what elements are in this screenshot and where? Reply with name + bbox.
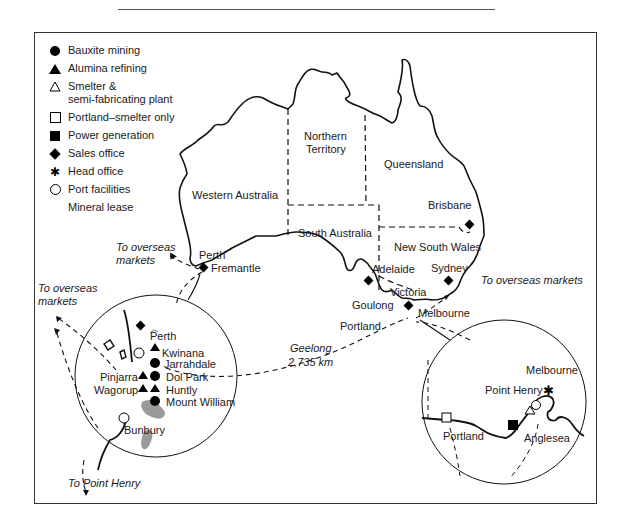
label-overseas-inset-1: To overseas [38,282,98,294]
inset-label-bunbury: Bunbury [124,424,165,436]
label-perth: Perth [199,249,225,261]
inset-label-wagorup: Wagorup [94,384,138,396]
label-overseas-inset-2: markets [38,295,78,307]
diamond-icon-inset-perth [136,321,146,331]
label-portland: Portland [340,320,381,332]
label-victoria: Victoria [390,286,427,298]
inset-vic: ✱ Melbourne Point Henry Portland Anglese… [422,320,586,484]
label-northern-territory-2: Territory [306,143,346,155]
diamond-icon-brisbane [465,220,475,230]
label-to-point-henry: To Point Henry [68,477,142,489]
open-circle-icon-point-henry-port [532,401,541,410]
label-adelaide: Adelaide [372,263,415,275]
label-overseas-wa-1: To overseas [116,241,176,253]
diamond-icon-adelaide [364,276,374,286]
triangle-icon-kwinana [150,343,160,351]
arrowhead-icon [444,294,450,300]
label-sydney: Sydney [431,262,468,274]
inset-label-perth: Perth [150,330,176,342]
label-melbourne: Melbourne [418,307,470,319]
circle-icon-dol-park [150,371,160,381]
diamond-icon-sydney [444,276,454,286]
label-overseas-wa-2: markets [116,254,156,266]
label-goulong: Goulong [352,299,394,311]
triangle-icon-huntly [150,384,160,392]
inset-label-jarrahdale: Jarrahdale [164,358,216,370]
circle-icon-mount-william [150,396,160,406]
filled-square-icon-anglesea [508,420,518,430]
inset-label-portland: Portland [443,430,484,442]
open-circle-icon-bunbury-port [119,413,129,423]
arrowhead-icon [167,252,177,261]
inset-label-point-henry: Point Henry [485,384,543,396]
inset-wa: Perth Kwinana Jarrahdale Pinjarra Dol Pa… [75,295,237,470]
label-queensland: Queensland [384,158,443,170]
label-fremantle: Fremantle [211,262,261,274]
arrowhead-icon [83,490,89,496]
map-canvas: Western Australia Northern Territory Que… [0,0,621,530]
inset-label-mount-william: Mount William [166,396,235,408]
inset-label-pinjarra: Pinjarra [100,371,139,383]
inset-label-melbourne: Melbourne [526,364,578,376]
open-circle-icon-kwinana-port [134,348,144,358]
open-square-icon-portland [442,413,451,422]
label-western-australia: Western Australia [192,189,279,201]
label-brisbane: Brisbane [428,199,471,211]
label-northern-territory-1: Northern [304,130,347,142]
label-south-australia: South Australia [298,227,373,239]
diamond-icon-melbourne [404,301,414,311]
asterisk-icon-head-office: ✱ [543,383,554,398]
inset-label-dol-park: Dol Park [166,371,209,383]
triangle-icon-pinjarra [138,371,148,379]
triangle-icon-wagorup [138,384,148,392]
circle-icon-jarrahdale [150,358,160,368]
label-new-south-wales: New South Wales [394,241,482,253]
arrowhead-icon [56,316,62,322]
inset-label-anglesea: Anglesea [524,432,571,444]
label-distance: 2,735 km [287,356,333,368]
label-overseas-east: To overseas markets [481,274,583,286]
label-geelong: Geelong [290,342,332,354]
inset-label-huntly: Huntly [166,384,198,396]
